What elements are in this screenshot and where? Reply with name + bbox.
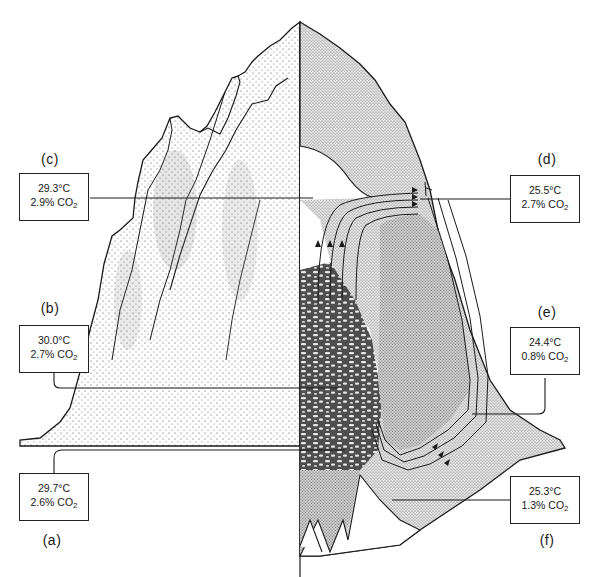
temperature-f: 25.3°C: [529, 484, 561, 498]
reading-box-d: 25.5°C 2.7% CO2: [510, 175, 580, 223]
label-d: (d): [527, 151, 567, 167]
co2-c: 2.9% CO2: [30, 195, 77, 213]
label-b: (b): [30, 300, 70, 316]
reading-box-c: 29.3°C 2.9% CO2: [19, 173, 89, 221]
co2-e: 0.8% CO2: [521, 349, 568, 367]
temperature-d: 25.5°C: [529, 183, 561, 197]
reading-box-e: 24.4°C 0.8% CO2: [510, 327, 580, 375]
mound-exterior: [20, 22, 300, 446]
reading-box-a: 29.7°C 2.6% CO2: [19, 473, 89, 521]
co2-b: 2.7% CO2: [30, 347, 77, 365]
temperature-a: 29.7°C: [38, 481, 70, 495]
co2-d: 2.7% CO2: [521, 197, 568, 215]
label-f: (f): [527, 532, 567, 548]
reading-box-f: 25.3°C 1.3% CO2: [510, 476, 580, 524]
co2-f: 1.3% CO2: [521, 498, 568, 516]
label-c: (c): [30, 151, 70, 167]
temperature-e: 24.4°C: [529, 335, 561, 349]
label-e: (e): [527, 304, 567, 320]
temperature-b: 30.0°C: [38, 333, 70, 347]
temperature-c: 29.3°C: [38, 181, 70, 195]
co2-a: 2.6% CO2: [30, 495, 77, 513]
label-a: (a): [32, 532, 72, 548]
reading-box-b: 30.0°C 2.7% CO2: [19, 325, 89, 373]
